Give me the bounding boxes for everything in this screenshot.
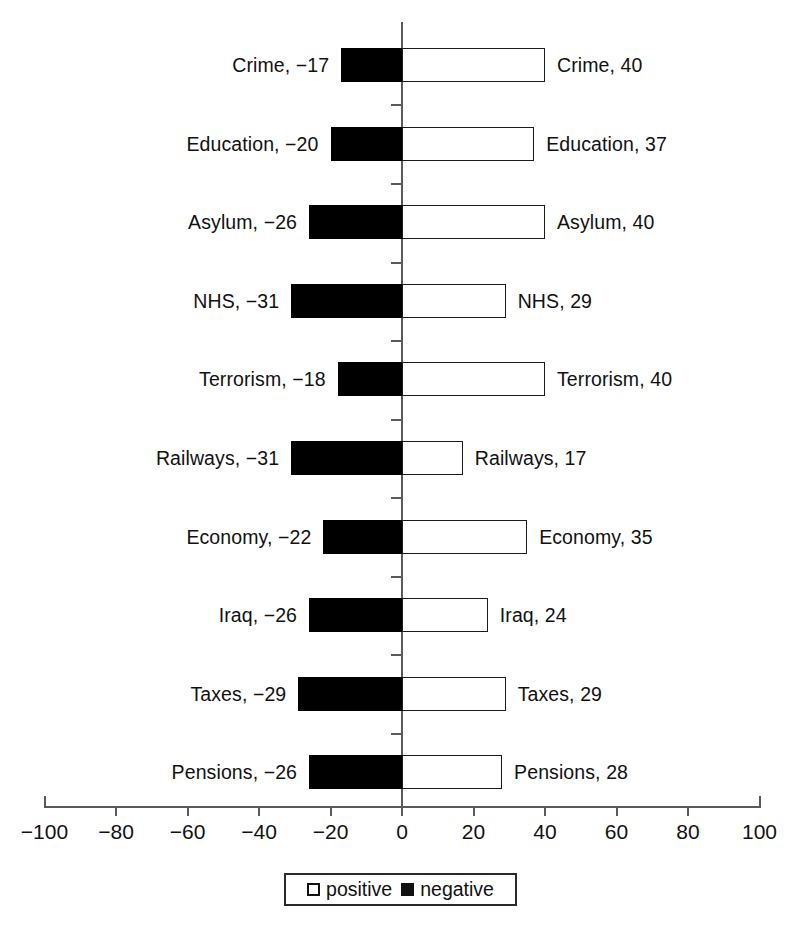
x-axis-tick <box>330 806 332 816</box>
bar-row: Terrorism, −18Terrorism, 40 <box>0 362 804 396</box>
bar-negative <box>298 677 402 711</box>
legend-label-negative: negative <box>420 880 494 900</box>
legend-swatch-open-square-icon <box>307 883 320 896</box>
legend-label-positive: positive <box>326 880 392 900</box>
bar-positive <box>402 284 506 318</box>
bar-label-left: Education, −20 <box>0 127 319 161</box>
caption-fragment <box>8 917 478 930</box>
bar-label-right: Crime, 40 <box>557 48 804 82</box>
bar-label-right: Economy, 35 <box>539 520 804 554</box>
bar-row: Pensions, −26Pensions, 28 <box>0 755 804 789</box>
bar-row: Railways, −31Railways, 17 <box>0 441 804 475</box>
bar-row: NHS, −31NHS, 29 <box>0 284 804 318</box>
bar-row: Education, −20Education, 37 <box>0 127 804 161</box>
x-axis-tick <box>687 806 689 816</box>
bar-positive <box>402 441 463 475</box>
bar-negative <box>341 48 402 82</box>
bar-label-left: Crime, −17 <box>0 48 329 82</box>
diverging-bar-chart: Crime, −17Crime, 40Education, −20Educati… <box>0 0 804 932</box>
legend-item-positive: positive <box>307 880 392 900</box>
bar-negative <box>338 362 402 396</box>
bar-label-left: NHS, −31 <box>0 284 279 318</box>
bar-negative <box>291 441 402 475</box>
bar-negative <box>291 284 402 318</box>
bar-positive <box>402 755 502 789</box>
zero-axis-tick <box>391 497 402 499</box>
bar-negative <box>309 598 402 632</box>
zero-axis-tick <box>391 419 402 421</box>
x-axis-tick <box>44 796 46 808</box>
bar-label-left: Taxes, −29 <box>0 677 286 711</box>
zero-axis-tick <box>391 262 402 264</box>
zero-axis-tick <box>391 340 402 342</box>
zero-axis-tick <box>391 654 402 656</box>
chart-legend: positive negative <box>284 873 517 906</box>
x-axis-tick <box>115 806 117 816</box>
bar-positive <box>402 362 545 396</box>
bar-positive <box>402 205 545 239</box>
bar-row: Iraq, −26Iraq, 24 <box>0 598 804 632</box>
bar-positive <box>402 598 488 632</box>
bar-label-right: Taxes, 29 <box>518 677 804 711</box>
bar-negative <box>323 520 402 554</box>
x-axis-tick <box>401 806 403 816</box>
x-axis-tick <box>616 806 618 816</box>
zero-axis-tick <box>391 183 402 185</box>
legend-swatch-filled-square-icon <box>401 883 414 896</box>
zero-axis-tick <box>391 576 402 578</box>
x-axis-tick <box>759 796 761 808</box>
bar-label-left: Asylum, −26 <box>0 205 297 239</box>
zero-axis-tick <box>391 733 402 735</box>
bar-row: Crime, −17Crime, 40 <box>0 48 804 82</box>
bar-positive <box>402 48 545 82</box>
bar-label-right: Education, 37 <box>546 127 804 161</box>
bar-label-right: Pensions, 28 <box>514 755 804 789</box>
bar-positive <box>402 127 534 161</box>
bar-negative <box>309 755 402 789</box>
x-axis-tick <box>544 806 546 816</box>
bar-negative <box>309 205 402 239</box>
bar-row: Taxes, −29Taxes, 29 <box>0 677 804 711</box>
bar-label-left: Economy, −22 <box>0 520 311 554</box>
bar-row: Asylum, −26Asylum, 40 <box>0 205 804 239</box>
bar-label-right: Railways, 17 <box>475 441 804 475</box>
bar-label-left: Terrorism, −18 <box>0 362 326 396</box>
bar-label-right: NHS, 29 <box>518 284 804 318</box>
bar-label-right: Terrorism, 40 <box>557 362 804 396</box>
bar-label-right: Asylum, 40 <box>557 205 804 239</box>
bar-label-left: Iraq, −26 <box>0 598 297 632</box>
x-axis-tick <box>473 806 475 816</box>
x-axis-tick <box>258 806 260 816</box>
x-axis-tick <box>187 806 189 816</box>
bar-negative <box>331 127 403 161</box>
bar-positive <box>402 520 527 554</box>
bar-row: Economy, −22Economy, 35 <box>0 520 804 554</box>
bar-positive <box>402 677 506 711</box>
x-axis: −100−80−60−40−20020406080100 <box>0 798 804 858</box>
bar-label-right: Iraq, 24 <box>500 598 804 632</box>
bar-label-left: Railways, −31 <box>0 441 279 475</box>
x-axis-tick-label: 100 <box>715 820 804 844</box>
legend-item-negative: negative <box>401 880 494 900</box>
plot-area: Crime, −17Crime, 40Education, −20Educati… <box>0 0 804 810</box>
zero-axis-tick <box>391 104 402 106</box>
bar-label-left: Pensions, −26 <box>0 755 297 789</box>
